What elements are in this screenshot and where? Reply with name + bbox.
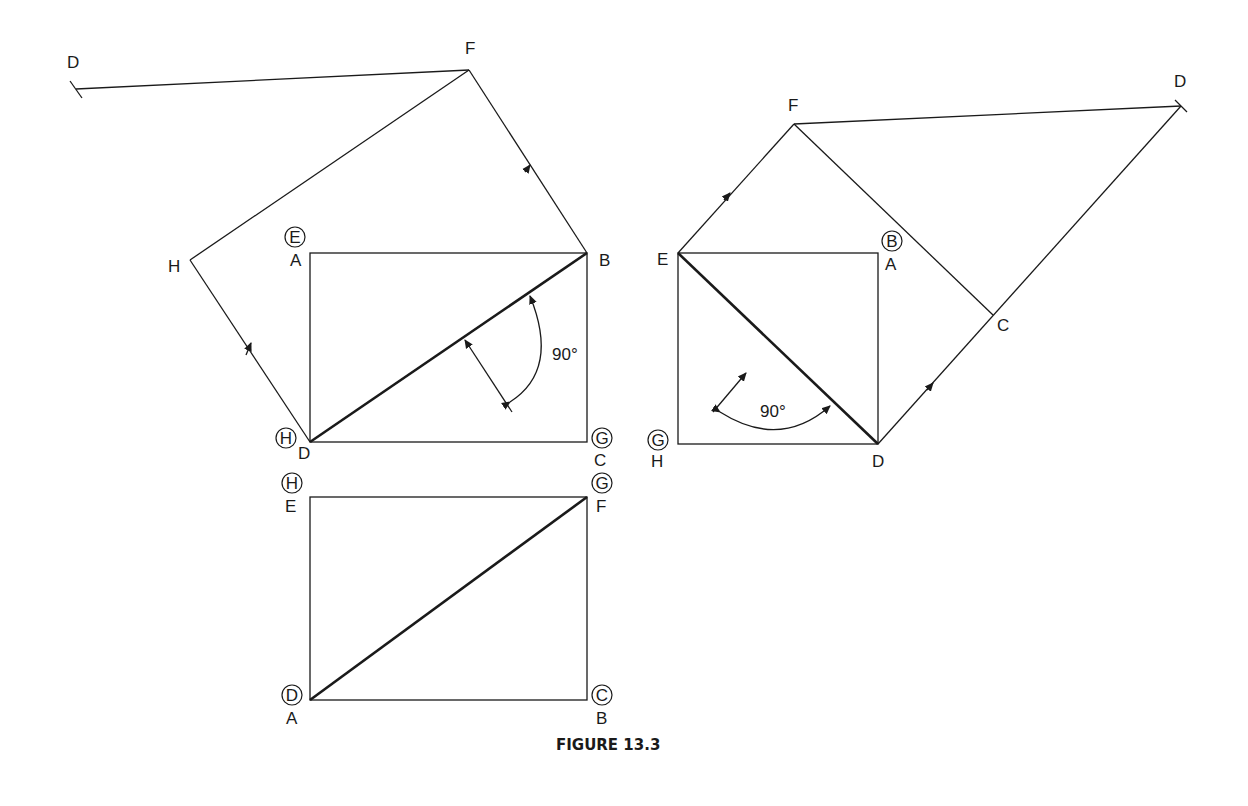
label-d-far: D xyxy=(1174,72,1186,91)
left-line-fd xyxy=(76,70,469,89)
circled-label-g: G xyxy=(651,431,664,450)
label-e: E xyxy=(657,250,668,269)
circled-label-h: H xyxy=(280,429,292,448)
label-d: D xyxy=(298,444,310,463)
label-h: H xyxy=(651,452,663,471)
right-line-ef xyxy=(678,124,794,253)
circled-label-e: E xyxy=(289,228,300,247)
cross-mark-icon xyxy=(70,81,82,98)
label-f: F xyxy=(596,497,606,516)
label-b: B xyxy=(599,251,610,270)
left-line-bf xyxy=(469,70,587,253)
circled-label-h: H xyxy=(286,474,298,493)
left-line-dh xyxy=(190,260,310,442)
right-line-dd xyxy=(878,106,1181,444)
right-view: 90° F D E B A C D G H xyxy=(648,72,1187,471)
label-f: F xyxy=(788,96,798,115)
angle-arc-icon xyxy=(510,296,541,402)
bottom-diagonal-af xyxy=(310,497,587,700)
circled-label-g: G xyxy=(595,474,608,493)
arrow-up-icon xyxy=(246,343,251,355)
angle-label: 90° xyxy=(552,345,578,364)
label-b: B xyxy=(596,709,607,728)
label-e: E xyxy=(285,497,296,516)
arrow-up-icon xyxy=(927,383,933,390)
left-line-hf xyxy=(190,70,469,260)
circled-label-b: B xyxy=(886,232,897,251)
right-line-fd xyxy=(794,106,1181,124)
perpendicular-arrow-icon xyxy=(465,340,512,412)
right-line-fc xyxy=(794,124,993,315)
circled-label-g: G xyxy=(595,429,608,448)
circled-label-d: D xyxy=(286,686,298,705)
bottom-view: H E G F D A C B xyxy=(282,473,612,728)
label-a: A xyxy=(885,255,897,274)
label-h: H xyxy=(168,257,180,276)
angle-label: 90° xyxy=(760,402,786,421)
label-f: F xyxy=(465,39,475,58)
label-d: D xyxy=(872,452,884,471)
label-a: A xyxy=(290,251,302,270)
circled-label-c: C xyxy=(596,686,608,705)
label-d-far: D xyxy=(67,53,79,72)
figure-caption: FIGURE 13.3 xyxy=(556,736,660,754)
figure-canvas: 90° F D H A B D C E H G H E G F D A C B xyxy=(0,0,1248,806)
left-diagonal-db xyxy=(310,253,587,442)
label-c: C xyxy=(594,451,606,470)
arrow-up-icon xyxy=(525,165,530,172)
perpendicular-arrow-icon xyxy=(713,373,746,412)
label-c: C xyxy=(997,316,1009,335)
left-view: 90° F D H A B D C E H G xyxy=(67,39,612,470)
label-a: A xyxy=(286,709,298,728)
